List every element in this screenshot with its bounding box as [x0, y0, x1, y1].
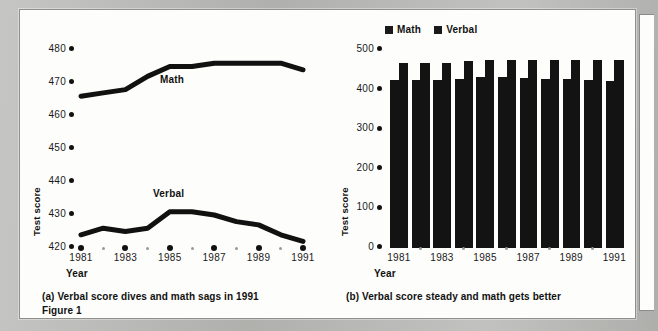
x-tick-label: 1991 [592, 252, 636, 263]
bar-verbal [550, 60, 559, 248]
x-axis-minor-dot [591, 247, 594, 250]
x-axis-minor-dot [505, 247, 508, 250]
panel-a-caption: (a) Verbal score dives and math sags in … [42, 291, 259, 302]
panel-b-x-axis-title: Year [374, 268, 396, 279]
bar-verbal [399, 63, 408, 248]
bar-verbal [507, 60, 516, 248]
legend-swatch-math-icon [385, 26, 393, 34]
legend-label-verbal: Verbal [446, 24, 477, 35]
legend-swatch-verbal-icon [434, 26, 442, 34]
bar-verbal [464, 61, 473, 248]
x-tick-label: 1989 [549, 252, 593, 263]
bar-verbal [420, 63, 429, 248]
line-series-math [81, 63, 303, 96]
figure-number-label: Figure 1 [42, 305, 82, 316]
bar-verbal [571, 60, 580, 248]
legend-label-math: Math [397, 24, 421, 35]
panel-b-legend: Math Verbal [385, 24, 477, 35]
panel-a-x-axis-title: Year [66, 268, 88, 279]
bar-verbal [528, 60, 537, 248]
panel-b-bars [326, 50, 635, 248]
panel-a-verbal-label: Verbal [153, 188, 184, 199]
x-tick-label: 1987 [506, 252, 550, 263]
x-tick-label: 1981 [377, 252, 421, 263]
bar-verbal [442, 63, 451, 248]
x-tick-label: 1983 [420, 252, 464, 263]
bar-verbal [485, 60, 494, 248]
bar-verbal [614, 60, 623, 248]
x-axis-minor-dot [462, 247, 465, 250]
panel-a-line-chart: Test score 480470460450440430420 1981198… [20, 10, 328, 318]
legend-item-verbal: Verbal [434, 24, 477, 35]
legend-item-math: Math [385, 24, 421, 35]
panel-b-bar-chart: Math Verbal Test score 5004003002001000 … [326, 10, 635, 318]
x-axis-minor-dot [548, 247, 551, 250]
figure-page: Test score 480470460450440430420 1981198… [19, 9, 636, 319]
line-series-verbal [81, 212, 303, 242]
panel-a-math-label: Math [160, 74, 184, 85]
x-axis-minor-dot [419, 247, 422, 250]
x-tick-label: 1985 [463, 252, 507, 263]
bar-verbal [593, 60, 602, 248]
panel-b-caption: (b) Verbal score steady and math gets be… [346, 291, 561, 302]
page-edge-strip [639, 14, 654, 311]
